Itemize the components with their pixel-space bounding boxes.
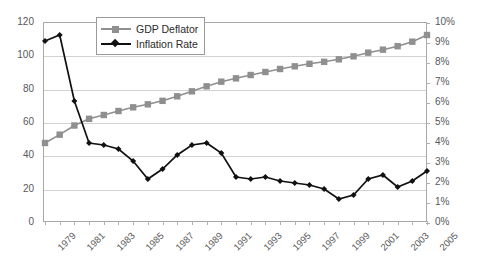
y-axis-left-tick-label: 120	[4, 16, 34, 27]
x-axis-tick-label: 1979	[55, 230, 78, 253]
data-point-square	[71, 122, 77, 128]
x-axis-tick-label: 2001	[378, 230, 401, 253]
y-axis-right-tick-label: 7%	[435, 76, 469, 87]
y-axis-left-tick-label: 0	[4, 216, 34, 227]
data-point-square	[321, 59, 327, 65]
x-axis-tick-label: 1985	[143, 230, 166, 253]
data-point-diamond	[277, 178, 283, 184]
data-point-square	[233, 75, 239, 81]
y-axis-right-tick-label: 5%	[435, 116, 469, 127]
x-axis-tick-label: 1995	[290, 230, 313, 253]
data-point-square	[409, 38, 415, 44]
x-axis-tick-label: 1997	[320, 230, 343, 253]
data-point-square	[203, 83, 209, 89]
data-point-square	[115, 108, 121, 114]
y-axis-right-tick-label: 1%	[435, 196, 469, 207]
data-point-square	[336, 56, 342, 62]
data-point-square	[424, 32, 430, 38]
y-axis-right-tick	[426, 223, 430, 224]
y-axis-right-tick-label: 8%	[435, 56, 469, 67]
data-point-square	[306, 61, 312, 67]
legend-label-inflation-rate: Inflation Rate	[136, 38, 198, 50]
legend-marker-square-icon	[101, 23, 131, 34]
data-point-square	[159, 98, 165, 104]
series-inflation-rate	[42, 32, 430, 202]
data-point-diamond	[292, 180, 298, 186]
x-axis-tick-label: 1987	[173, 230, 196, 253]
data-point-diamond	[57, 32, 63, 38]
data-point-square	[174, 93, 180, 99]
data-point-square	[145, 101, 151, 107]
data-point-diamond	[42, 38, 48, 44]
x-axis-tick-label: 1999	[349, 230, 372, 253]
legend-item-gdp-deflator: GDP Deflator	[101, 21, 198, 36]
data-point-square	[277, 66, 283, 72]
x-axis-tick-label: 2005	[437, 230, 460, 253]
data-point-diamond	[248, 176, 254, 182]
y-axis-left-tick-label: 80	[4, 83, 34, 94]
x-axis-tick-label: 1993	[261, 230, 284, 253]
data-point-square	[42, 140, 48, 146]
data-point-square	[130, 104, 136, 110]
data-point-square	[292, 63, 298, 69]
data-point-square	[394, 43, 400, 49]
chart-legend: GDP Deflator Inflation Rate	[96, 17, 205, 55]
data-point-diamond	[306, 182, 312, 188]
y-axis-left-tick-label: 100	[4, 49, 34, 60]
data-point-square	[56, 131, 62, 137]
data-point-square	[350, 53, 356, 59]
legend-marker-diamond-icon	[101, 38, 131, 49]
data-point-square	[86, 116, 92, 122]
data-point-square	[218, 78, 224, 84]
data-point-square	[189, 88, 195, 94]
y-axis-right-tick-label: 2%	[435, 176, 469, 187]
x-axis-tick-label: 1989	[202, 230, 225, 253]
y-axis-right-tick-label: 0%	[435, 216, 469, 227]
y-axis-left-tick-label: 40	[4, 149, 34, 160]
y-axis-right-tick-label: 6%	[435, 96, 469, 107]
legend-label-gdp-deflator: GDP Deflator	[136, 23, 198, 35]
data-point-square	[101, 112, 107, 118]
y-axis-right-tick-label: 3%	[435, 156, 469, 167]
x-axis-tick-label: 1991	[231, 230, 254, 253]
data-point-diamond	[71, 98, 77, 104]
y-axis-left-tick-label: 20	[4, 183, 34, 194]
data-point-square	[247, 72, 253, 78]
data-point-diamond	[86, 140, 92, 146]
data-point-square	[380, 46, 386, 52]
x-axis-tick-label: 1983	[114, 230, 137, 253]
y-axis-right-tick-label: 10%	[435, 16, 469, 27]
y-axis-right-tick-label: 4%	[435, 136, 469, 147]
x-axis-tick-label: 2003	[408, 230, 431, 253]
legend-item-inflation-rate: Inflation Rate	[101, 36, 198, 51]
data-point-diamond	[262, 174, 268, 180]
data-point-square	[365, 49, 371, 55]
y-axis-left-tick-label: 60	[4, 116, 34, 127]
data-point-diamond	[101, 142, 107, 148]
x-axis-tick-label: 1981	[85, 230, 108, 253]
data-point-square	[262, 69, 268, 75]
chart-container: GDP Deflator Inflation Rate 020406080100…	[0, 0, 482, 269]
y-axis-right-tick-label: 9%	[435, 36, 469, 47]
